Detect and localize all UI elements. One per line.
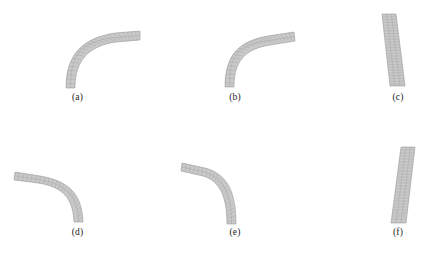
mesh-diagram-e	[160, 135, 310, 230]
panel-f: (f)	[325, 135, 433, 255]
panel-label-d: (d)	[0, 228, 155, 238]
panel-label-e: (e)	[160, 228, 310, 238]
mesh-diagram-d	[0, 135, 155, 230]
mesh-diagram-f	[325, 135, 433, 230]
panel-label-c: (c)	[325, 93, 433, 103]
mesh-body-a	[66, 31, 140, 88]
mesh-body-b	[225, 32, 295, 87]
panel-b: (b)	[160, 0, 310, 115]
mesh-diagram-c	[325, 0, 433, 95]
panel-label-b: (b)	[160, 93, 310, 103]
panel-d: (d)	[0, 135, 155, 255]
panel-label-a: (a)	[0, 93, 155, 103]
panel-e: (e)	[160, 135, 310, 255]
panel-label-f: (f)	[325, 228, 433, 238]
mesh-body-f	[391, 147, 415, 223]
mesh-body-c	[382, 14, 405, 86]
mesh-diagram-b	[160, 0, 310, 95]
mesh-diagram-a	[0, 0, 155, 95]
figure-panel-grid: (a)	[0, 0, 433, 257]
panel-a: (a)	[0, 0, 155, 115]
mesh-body-e	[181, 163, 236, 224]
mesh-body-d	[14, 172, 83, 222]
panel-c: (c)	[325, 0, 433, 115]
